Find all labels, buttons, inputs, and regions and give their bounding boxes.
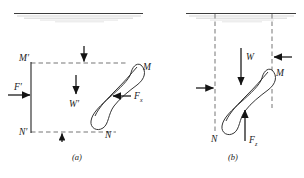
figure-svg: F′ W′ F x M′ N′ M N (a) [0,0,304,178]
force-left-label-a: F′ [13,82,23,92]
support-surface-b [186,14,296,22]
support-surface-a [14,14,143,22]
body-outline-b [222,69,276,134]
weight-label-a: W′ [69,99,80,109]
force-x-subscript-a: x [139,97,143,103]
force-x-label-a: F [133,91,140,101]
weight-label-b: W [246,52,255,62]
corner-label-n-prime-a: N′ [18,127,28,137]
body-label-m-b: M [275,68,285,78]
panel-caption-a: (a) [72,152,82,162]
corner-label-m-prime-a: M′ [18,53,30,63]
body-label-m-a: M [142,62,152,72]
panel-b: W F z M N (b) [186,14,296,163]
body-label-n-b: N [210,134,218,144]
figure-root: F′ W′ F x M′ N′ M N (a) [0,0,304,178]
panel-caption-b: (b) [228,152,238,162]
force-z-label-b: F [248,135,255,145]
force-z-subscript-b: z [254,141,258,147]
body-label-n-a: N [104,130,112,140]
panel-a: F′ W′ F x M′ N′ M N (a) [8,14,152,163]
